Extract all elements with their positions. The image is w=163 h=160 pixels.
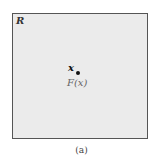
function-label: F(x) (67, 77, 87, 88)
figure-caption: (a) (0, 145, 163, 155)
point-label: x (68, 62, 74, 73)
region-label: R (16, 15, 24, 26)
point-marker (76, 71, 80, 75)
region-box: R (12, 13, 148, 139)
